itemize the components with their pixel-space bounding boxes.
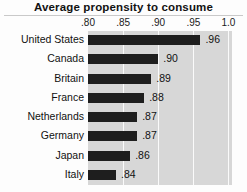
bar-row: Germany.87 [0, 127, 247, 146]
bar [88, 74, 151, 84]
x-axis-tick-labels: .80.85.90.951.0 [0, 17, 247, 30]
bar-row: Japan.86 [0, 147, 247, 166]
chart-title: Average propensity to consume [0, 1, 247, 14]
bar [88, 131, 137, 141]
category-label: Japan [0, 149, 84, 162]
category-label: Italy [0, 168, 84, 181]
category-label: United States [0, 33, 84, 46]
bar-row: France.88 [0, 89, 247, 108]
bar-value-label: .87 [142, 110, 157, 123]
category-label: Britain [0, 72, 84, 85]
bar-row: Britain.89 [0, 70, 247, 89]
x-tick-label: .85 [108, 17, 138, 29]
x-tick-label: 1.0 [213, 17, 243, 29]
bar-value-label: .87 [142, 129, 157, 142]
bar [88, 151, 130, 161]
bar-value-label: .89 [156, 72, 171, 85]
bar [88, 112, 137, 122]
bar-row: Canada.90 [0, 50, 247, 69]
bar-row: Netherlands.87 [0, 108, 247, 127]
bar [88, 35, 200, 45]
category-label: Netherlands [0, 110, 84, 123]
bar-chart: Average propensity to consume .80.85.90.… [0, 0, 247, 192]
bar [88, 54, 158, 64]
x-tick-label: .90 [143, 17, 173, 29]
category-label: Germany [0, 129, 84, 142]
category-label: Canada [0, 52, 84, 65]
bar-value-label: .96 [205, 33, 220, 46]
bar-rows: United States.96Canada.90Britain.89Franc… [0, 31, 247, 185]
title-divider [4, 15, 243, 16]
x-tick-label: .95 [178, 17, 208, 29]
bar-value-label: .84 [121, 168, 136, 181]
bar-value-label: .88 [149, 91, 164, 104]
bar-row: Italy.84 [0, 166, 247, 185]
bar [88, 170, 116, 180]
category-label: France [0, 91, 84, 104]
x-tick-label: .80 [73, 17, 103, 29]
bar-row: United States.96 [0, 31, 247, 50]
bar-value-label: .90 [163, 52, 178, 65]
bar [88, 93, 144, 103]
bar-value-label: .86 [135, 149, 150, 162]
